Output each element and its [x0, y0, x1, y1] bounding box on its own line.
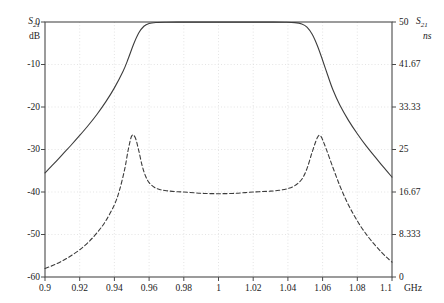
right-axis-unit: ns: [423, 31, 431, 41]
left-tick-label: -40: [2, 187, 40, 197]
x-tick-label: 1.1: [366, 283, 406, 293]
left-tick-label: -60: [2, 272, 40, 282]
right-tick-label: 25: [399, 144, 409, 154]
right-tick-label: 16.67: [399, 187, 420, 197]
right-tick-label: 0: [399, 272, 404, 282]
left-tick-label: -30: [2, 144, 40, 154]
x-axis-unit-label: GHz: [404, 283, 422, 293]
figure-container: S21 dB S21 ns 0-10-20-30-40-50-60 5041.6…: [0, 0, 444, 303]
left-tick-label: -20: [2, 102, 40, 112]
right-tick-label: 33.33: [399, 102, 420, 112]
right-axis-symbol: S21: [416, 16, 428, 26]
data-series: [45, 22, 392, 268]
left-tick-label: 0: [20, 17, 40, 27]
right-tick-label: 8.333: [399, 229, 420, 239]
chart-plot-area: [0, 0, 444, 303]
right-axis-title: S21 ns: [416, 16, 431, 42]
right-tick-label: 50: [399, 17, 409, 27]
right-tick-label: 41.67: [399, 59, 420, 69]
grid-lines: [45, 22, 392, 277]
left-axis-unit: dB: [29, 31, 40, 41]
left-tick-label: -10: [2, 59, 40, 69]
left-tick-label: -50: [2, 229, 40, 239]
